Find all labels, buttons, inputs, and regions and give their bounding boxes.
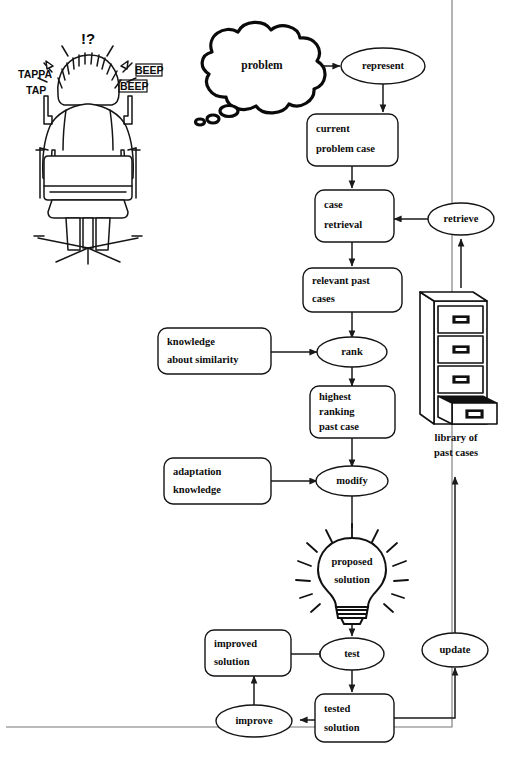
cabinet-drawer-3[interactable] — [438, 366, 483, 393]
adaptation-knowledge-line2: knowledge — [173, 484, 221, 495]
chair-back — [44, 156, 132, 200]
node-update[interactable]: update — [422, 633, 488, 667]
filing-cabinet-library: library of past cases — [420, 292, 497, 458]
current-problem-case-line1: current — [316, 123, 350, 134]
improved-solution-line2: solution — [214, 656, 250, 667]
node-test-label: test — [344, 648, 360, 659]
case-retrieval-line1: case — [324, 199, 343, 210]
node-update-label: update — [440, 644, 471, 655]
diagram-canvas: !? — [0, 0, 526, 764]
spark-right — [121, 61, 128, 69]
node-modify-label: modify — [336, 475, 368, 486]
node-tested-solution[interactable]: tested solution — [315, 694, 394, 742]
node-represent[interactable]: represent — [341, 48, 425, 84]
cabinet-side — [420, 292, 434, 424]
cbr-cycle-diagram: !? — [0, 0, 526, 764]
node-improve-label: improve — [235, 715, 272, 726]
relevant-past-cases-line2: cases — [312, 293, 335, 304]
case-retrieval-line2: retrieval — [324, 219, 362, 230]
highest-ranking-line1: highest — [319, 391, 352, 402]
node-retrieve-label: retrieve — [444, 213, 479, 224]
node-knowledge-about-similarity[interactable]: knowledge about similarity — [158, 328, 271, 374]
node-highest-ranking-past-case[interactable]: highest ranking past case — [310, 386, 395, 438]
node-improved-solution[interactable]: improved solution — [205, 630, 291, 676]
node-current-problem-case[interactable]: current problem case — [307, 114, 398, 166]
relevant-past-cases-line1: relevant past — [312, 275, 370, 286]
thought-cloud-problem: problem — [196, 22, 325, 125]
highest-ranking-line2: ranking — [319, 406, 355, 417]
adaptation-knowledge-line1: adaptation — [173, 466, 222, 477]
knowledge-similarity-line2: about similarity — [167, 354, 239, 365]
sfx-confusion: !? — [81, 30, 95, 47]
tested-solution-line2: solution — [324, 722, 360, 733]
person-at-computer-illustration: !? — [18, 30, 164, 264]
knowledge-similarity-line1: knowledge — [167, 336, 215, 347]
thought-cloud-label: problem — [241, 59, 283, 72]
chair-column — [83, 218, 93, 248]
node-retrieve[interactable]: retrieve — [428, 203, 494, 235]
node-adaptation-knowledge[interactable]: adaptation knowledge — [164, 458, 271, 504]
node-represent-label: represent — [362, 60, 405, 71]
tested-solution-line1: tested — [324, 703, 350, 714]
current-problem-case-line2: problem case — [316, 143, 375, 154]
node-relevant-past-cases[interactable]: relevant past cases — [303, 268, 402, 312]
sfx-typing-2: TAP — [26, 84, 46, 96]
cabinet-drawer-4-open[interactable] — [438, 396, 497, 424]
lightbulb-proposed-solution: proposed solution — [296, 524, 408, 624]
node-case-retrieval[interactable]: case retrieval — [315, 190, 394, 242]
desk-right — [124, 96, 132, 124]
node-rank-label: rank — [341, 346, 363, 357]
cabinet-caption-line1: library of — [435, 432, 478, 443]
node-modify[interactable]: modify — [316, 466, 388, 496]
desk-left — [44, 96, 52, 124]
thought-bubble-mid — [207, 115, 219, 123]
thought-bubble-small — [196, 119, 205, 125]
cabinet-drawer-2[interactable] — [438, 336, 483, 363]
node-rank[interactable]: rank — [317, 337, 387, 367]
sfx-beep-1: BEEP — [135, 64, 164, 76]
cabinet-caption-line2: past cases — [434, 447, 478, 458]
highest-ranking-line3: past case — [319, 421, 359, 432]
improved-solution-line1: improved — [214, 638, 257, 649]
sfx-typing-1: TAPPA — [18, 68, 52, 80]
sfx-beep-2: BEEP — [120, 80, 149, 92]
lightbulb-line1: proposed — [331, 556, 372, 567]
lightbulb-line2: solution — [334, 574, 370, 585]
cabinet-drawer-1[interactable] — [438, 306, 483, 333]
thought-bubble-large — [220, 106, 238, 117]
node-test[interactable]: test — [320, 638, 384, 670]
node-improve[interactable]: improve — [216, 705, 292, 737]
chair-seat — [48, 200, 128, 218]
